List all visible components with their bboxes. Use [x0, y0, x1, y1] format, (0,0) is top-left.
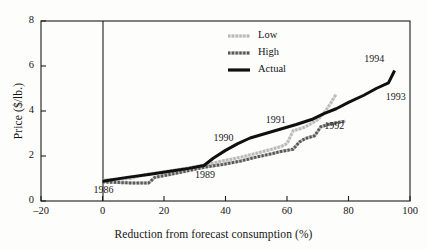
legend-label-actual: Actual	[258, 63, 286, 74]
x-tick-label: 0	[83, 205, 123, 216]
x-axis-ticks	[41, 196, 410, 201]
y-tick-label: 8	[12, 14, 34, 25]
annotation-label: 1989	[195, 169, 215, 180]
annotation-label: 1986	[94, 184, 114, 195]
annotation-label: 1991	[266, 114, 286, 125]
legend-label-low: Low	[258, 29, 277, 40]
x-tick-label: 100	[390, 205, 427, 216]
y-tick-label: 2	[12, 149, 34, 160]
y-tick-label: 0	[12, 194, 34, 205]
x-tick-label: 40	[206, 205, 246, 216]
legend-swatches	[228, 36, 250, 70]
x-tick-label: 60	[267, 205, 307, 216]
annotation-label: 1993	[386, 91, 406, 102]
y-tick-label: 6	[12, 59, 34, 70]
annotation-label: 1994	[364, 53, 384, 64]
x-tick-label: –20	[21, 205, 61, 216]
plot-border	[41, 21, 410, 201]
chart-figure: Reduction from forecast consumption (%) …	[0, 0, 427, 250]
plot-frame	[41, 21, 410, 201]
data-series-group	[103, 71, 395, 184]
annotation-label: 1990	[214, 132, 234, 143]
series-line-actual	[103, 71, 395, 182]
x-axis-title: Reduction from forecast consumption (%)	[0, 228, 427, 240]
annotation-label: 1992	[324, 120, 344, 131]
legend-label-high: High	[258, 46, 279, 57]
x-tick-label: 80	[329, 205, 369, 216]
y-tick-label: 4	[12, 104, 34, 115]
x-tick-label: 20	[144, 205, 184, 216]
y-axis-ticks	[41, 21, 46, 201]
